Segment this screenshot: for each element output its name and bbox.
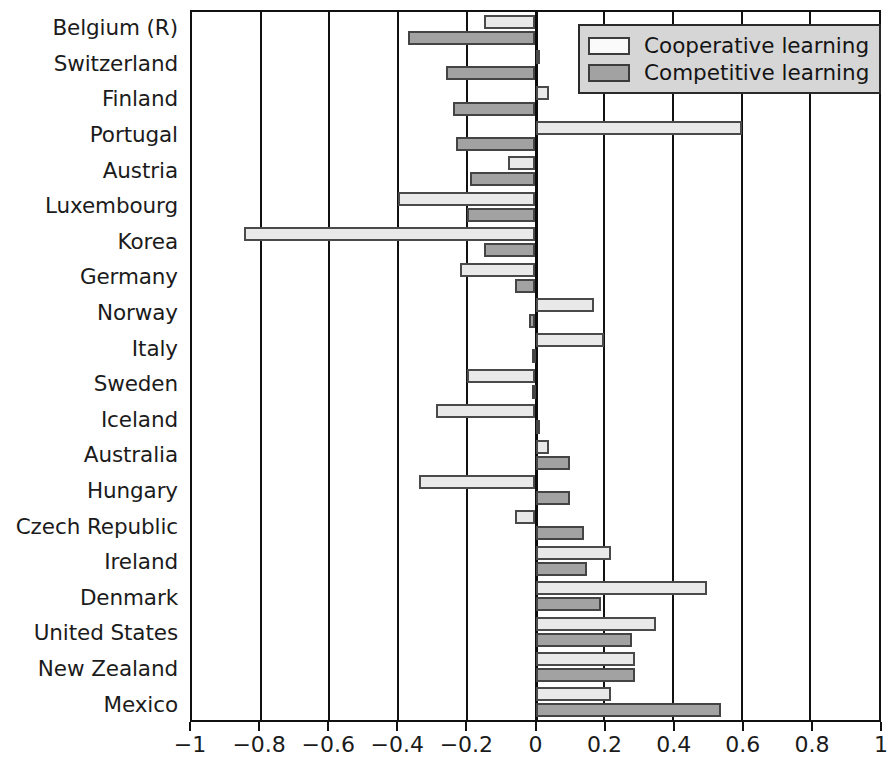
category-label: Switzerland: [0, 46, 184, 82]
legend-item-cooperative: Cooperative learning: [588, 32, 869, 59]
axis-tick: [258, 722, 260, 731]
cooperative-bar: [460, 263, 536, 277]
competitive-bar: [536, 633, 632, 647]
category-label: Mexico: [0, 686, 184, 722]
cooperative-bar: [398, 192, 535, 206]
competitive-bar: [536, 597, 601, 611]
category-label: Sweden: [0, 366, 184, 402]
cooperative-bar: [536, 652, 636, 666]
legend-label-cooperative: Cooperative learning: [644, 33, 869, 58]
axis-tick: [465, 722, 467, 731]
category-label: Czech Republic: [0, 508, 184, 544]
bar-row: [192, 685, 879, 720]
category-label: New Zealand: [0, 651, 184, 687]
axis-tick: [604, 722, 606, 731]
bar-row: [192, 224, 879, 259]
competitive-bar: [536, 526, 584, 540]
cooperative-bar: [484, 15, 536, 29]
category-label: Australia: [0, 437, 184, 473]
axis-tick-label: −0.8: [232, 732, 285, 757]
competitive-bar: [515, 279, 536, 293]
competitive-bar: [532, 385, 536, 399]
category-label: Finland: [0, 81, 184, 117]
bar-row: [192, 649, 879, 684]
axis-tick: [742, 722, 744, 731]
bar-row: [192, 189, 879, 224]
category-label: Austria: [0, 152, 184, 188]
competitive-bar: [467, 208, 536, 222]
cooperative-bar: [244, 227, 536, 241]
cooperative-bar: [436, 404, 536, 418]
competitive-bar: [536, 668, 636, 682]
cooperative-bar: [419, 475, 536, 489]
cooperative-swatch-icon: [588, 37, 630, 55]
cooperative-bar: [536, 546, 612, 560]
bar-rows: [192, 12, 879, 720]
bar-row: [192, 472, 879, 507]
bar-row: [192, 154, 879, 189]
category-label: Belgium (R): [0, 10, 184, 46]
competitive-swatch-icon: [588, 64, 630, 82]
competitive-bar: [446, 66, 535, 80]
category-label: Norway: [0, 295, 184, 331]
axis-tick: [880, 722, 882, 731]
competitive-bar: [453, 102, 535, 116]
axis-tick: [189, 722, 191, 731]
plot-area: [190, 10, 881, 722]
axis-tick: [396, 722, 398, 731]
cooperative-bar: [536, 86, 550, 100]
category-label: Luxembourg: [0, 188, 184, 224]
competitive-bar: [529, 314, 536, 328]
competitive-bar: [536, 562, 588, 576]
axis-tick-label: 0.6: [725, 732, 760, 757]
competitive-bar: [536, 456, 570, 470]
axis-tick-label: 0: [529, 732, 543, 757]
category-label: Hungary: [0, 473, 184, 509]
legend: Cooperative learning Competitive learnin…: [578, 24, 881, 94]
bar-row: [192, 579, 879, 614]
bar-row: [192, 437, 879, 472]
cooperative-bar: [536, 121, 742, 135]
competitive-bar: [456, 137, 535, 151]
bar-row: [192, 508, 879, 543]
cooperative-bar: [536, 440, 550, 454]
competitive-bar: [484, 243, 536, 257]
competitive-bar: [536, 420, 540, 434]
category-axis-labels: Belgium (R)SwitzerlandFinlandPortugalAus…: [0, 10, 184, 722]
cooperative-bar: [536, 50, 540, 64]
bar-row: [192, 543, 879, 578]
competitive-bar: [532, 349, 536, 363]
cooperative-bar: [536, 687, 612, 701]
competitive-bar: [470, 172, 535, 186]
category-label: Germany: [0, 259, 184, 295]
bar-row: [192, 614, 879, 649]
bar-row: [192, 401, 879, 436]
competitive-bar: [536, 491, 570, 505]
axis-tick: [327, 722, 329, 731]
bar-row: [192, 295, 879, 330]
cooperative-bar: [467, 369, 536, 383]
axis-tick-label: −0.6: [301, 732, 354, 757]
axis-tick: [673, 722, 675, 731]
axis-tick-label: −0.4: [371, 732, 424, 757]
competitive-bar: [536, 703, 721, 717]
category-label: Denmark: [0, 580, 184, 616]
category-label: Ireland: [0, 544, 184, 580]
legend-label-competitive: Competitive learning: [644, 60, 869, 85]
axis-tick-label: 0.4: [656, 732, 691, 757]
cooperative-bar: [515, 510, 536, 524]
cooperative-bar: [536, 617, 656, 631]
cooperative-bar: [536, 298, 594, 312]
category-label: Korea: [0, 224, 184, 260]
category-label: Iceland: [0, 402, 184, 438]
axis-tick: [535, 722, 537, 731]
cooperative-bar: [536, 581, 708, 595]
axis-tick-label: 1: [874, 732, 888, 757]
competitive-bar: [408, 31, 535, 45]
axis-tick-label: −0.2: [440, 732, 493, 757]
cooperative-bar: [508, 156, 535, 170]
axis-tick-label: 0.8: [794, 732, 829, 757]
bar-row: [192, 260, 879, 295]
category-label: United States: [0, 615, 184, 651]
bar-row: [192, 366, 879, 401]
